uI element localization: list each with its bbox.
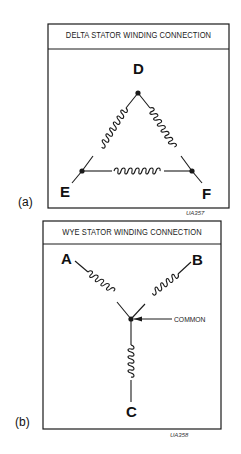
- node-a-label: A: [61, 251, 72, 266]
- winding-d-f: [138, 93, 192, 171]
- panel-b-sub-label: (b): [15, 416, 30, 428]
- node-c-label: C: [126, 404, 137, 419]
- delta-panel: [48, 24, 229, 208]
- delta-figure-code: UA357: [186, 210, 204, 216]
- node-f-dot: [189, 168, 194, 173]
- common-arrow-icon: [134, 317, 142, 322]
- winding-b: [131, 262, 191, 319]
- common-label: COMMON: [174, 316, 206, 324]
- node-d-label: D: [133, 61, 144, 76]
- panel-a-sub-label: (a): [18, 196, 33, 208]
- wye-figure-code: UA358: [170, 432, 188, 438]
- node-d-dot: [135, 90, 140, 95]
- winding-d-e: [82, 93, 138, 171]
- node-b-label: B: [192, 252, 203, 267]
- winding-e-f: [82, 168, 192, 174]
- node-e-label: E: [60, 184, 70, 199]
- winding-c: [128, 319, 134, 402]
- winding-a: [75, 261, 131, 319]
- delta-panel-frame: [48, 24, 229, 208]
- node-e-dot: [79, 168, 84, 173]
- wye-panel-title: WYE STATOR WINDING CONNECTION: [50, 229, 214, 237]
- node-f-label: F: [202, 186, 211, 201]
- diagram-canvas: [0, 0, 241, 454]
- delta-panel-title: DELTA STATOR WINDING CONNECTION: [55, 32, 222, 40]
- node-common-dot: [128, 316, 133, 321]
